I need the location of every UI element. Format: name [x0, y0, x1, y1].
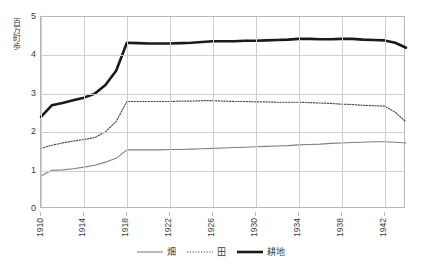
- x-tick-label: 1934: [293, 218, 302, 237]
- x-tick-label: 1930: [250, 218, 259, 237]
- x-tick-label: 1918: [121, 218, 130, 237]
- y-tick-label: 0: [31, 204, 36, 213]
- gridline-vertical: [213, 17, 214, 207]
- gridline-vertical: [385, 17, 386, 207]
- x-tick-mark: [126, 212, 127, 216]
- gridline-vertical: [41, 17, 42, 207]
- series-layer: [41, 17, 406, 209]
- y-tick-label: 4: [31, 50, 36, 59]
- legend-label: 畑: [167, 248, 176, 257]
- line-chart: 百万町歩 543210 1910191419181922192619301934…: [0, 0, 421, 266]
- gridline-vertical: [127, 17, 128, 207]
- series-line: [41, 101, 406, 149]
- x-tick-mark: [212, 212, 213, 216]
- legend-swatch-icon: [237, 248, 263, 256]
- x-tick-label: 1938: [336, 218, 345, 237]
- gridline-horizontal: [41, 55, 404, 56]
- gridline-vertical: [256, 17, 257, 207]
- legend-swatch-icon: [187, 248, 213, 256]
- x-tick-mark: [83, 212, 84, 216]
- x-tick-label: 1910: [36, 218, 45, 237]
- gridline-horizontal: [41, 94, 404, 95]
- series-line: [41, 39, 406, 117]
- gridline-horizontal: [41, 171, 404, 172]
- y-axis-title: 百万町歩: [6, 18, 20, 50]
- legend-item[interactable]: 耕地: [237, 248, 285, 257]
- gridline-horizontal: [41, 132, 404, 133]
- legend-label: 田: [217, 248, 226, 257]
- gridline-vertical: [170, 17, 171, 207]
- x-tick-label: 1926: [207, 218, 216, 237]
- x-tick-mark: [298, 212, 299, 216]
- legend-item[interactable]: 田: [187, 248, 226, 257]
- x-tick-mark: [169, 212, 170, 216]
- gridline-vertical: [299, 17, 300, 207]
- gridline-vertical: [342, 17, 343, 207]
- plot-area: [40, 16, 405, 208]
- y-tick-label: 2: [31, 127, 36, 136]
- y-axis-tick-labels: 543210: [20, 16, 36, 208]
- x-tick-label: 1942: [379, 218, 388, 237]
- chart-legend: 畑田耕地: [0, 243, 421, 261]
- x-tick-mark: [384, 212, 385, 216]
- x-tick-mark: [40, 212, 41, 216]
- legend-label: 耕地: [267, 248, 285, 257]
- y-tick-label: 1: [31, 165, 36, 174]
- legend-swatch-icon: [137, 248, 163, 256]
- x-tick-label: 1914: [78, 218, 87, 237]
- legend-item[interactable]: 畑: [137, 248, 176, 257]
- y-tick-label: 5: [31, 12, 36, 21]
- gridline-vertical: [84, 17, 85, 207]
- x-tick-mark: [341, 212, 342, 216]
- x-tick-label: 1922: [164, 218, 173, 237]
- y-tick-label: 3: [31, 88, 36, 97]
- x-tick-mark: [255, 212, 256, 216]
